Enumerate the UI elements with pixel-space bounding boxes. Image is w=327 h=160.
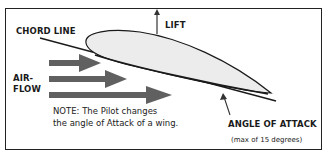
- note-line2: the angle of Attack of a wing.: [53, 117, 178, 129]
- chord-line-label: CHORD LINE: [16, 26, 76, 36]
- angle-limit-label: (max of 15 degrees): [231, 136, 302, 144]
- angle-pointer-arrow-icon: [224, 97, 230, 115]
- airflow-label-line2: FLOW: [13, 84, 41, 94]
- angle-of-attack-label: ANGLE OF ATTACK: [228, 119, 317, 129]
- lift-label: LIFT: [165, 20, 186, 30]
- airflow-label-line1: AIR-: [13, 73, 33, 83]
- note-line1: NOTE: The Pilot changes: [53, 105, 157, 117]
